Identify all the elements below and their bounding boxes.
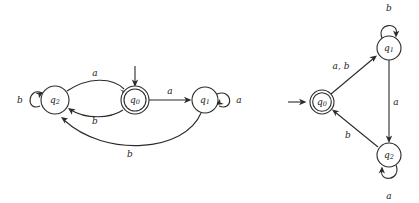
right-start-arrow: [288, 99, 307, 105]
left-edge-q2-q0-a: a: [67, 68, 127, 95]
right-edge-q1-q1-b: b: [381, 3, 399, 38]
automata-svg: b a b a: [0, 0, 419, 203]
left-edge-label-q1-q2: b: [127, 149, 133, 159]
left-q2-subscript: 2: [55, 98, 60, 106]
left-state-q1[interactable]: q1: [192, 87, 218, 113]
right-state-q0[interactable]: q0: [310, 90, 334, 114]
left-edge-q0-q2-b: b: [68, 108, 123, 126]
left-edge-label-q2-q0: a: [92, 68, 97, 78]
right-edge-label-q1-q2: a: [393, 97, 398, 107]
automata-figure: b a b a: [0, 0, 419, 203]
left-edge-label-q2-q2: b: [17, 95, 23, 105]
right-edge-label-q0-q1: a, b: [333, 61, 350, 71]
left-automaton: b a b a: [17, 66, 242, 159]
right-edge-label-q2-q0: b: [345, 130, 351, 140]
left-start-arrow: [132, 66, 138, 87]
left-edge-label-q0-q1: a: [167, 86, 172, 96]
right-automaton: a, b b a b: [288, 3, 401, 201]
right-edge-label-q2-q2: a: [386, 191, 391, 201]
left-edge-q1-q1-a: a: [216, 93, 242, 107]
right-state-q1[interactable]: q1: [377, 36, 401, 60]
right-q1-subscript: 1: [390, 46, 394, 54]
left-state-q2[interactable]: q2: [41, 86, 69, 114]
left-edge-q0-q1-a: a: [149, 86, 192, 103]
right-edge-q2-q0-b: b: [332, 110, 378, 148]
left-q0-subscript: 0: [136, 98, 140, 106]
left-q1-subscript: 1: [206, 98, 210, 106]
right-edge-label-q1-q1: b: [386, 3, 392, 13]
left-edge-label-q1-q1: a: [236, 95, 241, 105]
left-edge-label-q0-q2: b: [92, 116, 98, 126]
right-q0-subscript: 0: [323, 100, 327, 108]
right-edge-q2-q2-a: a: [379, 165, 397, 201]
right-edge-q1-q2-a: a: [386, 60, 399, 143]
left-edge-q1-q2-b: b: [61, 113, 201, 159]
right-state-q2[interactable]: q2: [377, 143, 401, 167]
left-edge-q2-q2-b: b: [17, 92, 43, 107]
right-edge-q0-q1-ab: a, b: [331, 56, 377, 95]
left-state-q0[interactable]: q0: [121, 86, 149, 114]
right-q2-subscript: 2: [389, 153, 394, 161]
